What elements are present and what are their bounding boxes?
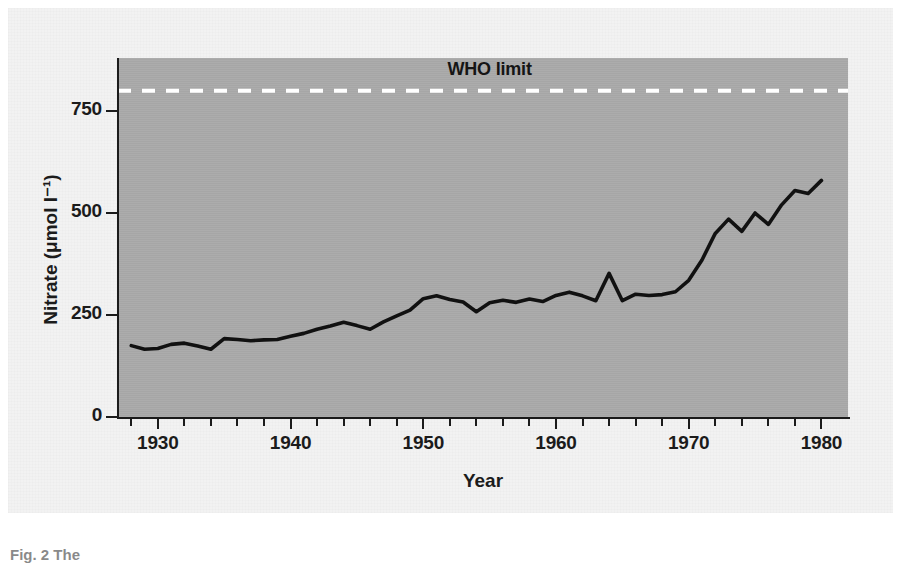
who-limit-label: WHO limit (390, 59, 590, 80)
x-tick-label-1940: 1940 (246, 432, 336, 454)
x-tick-1962 (582, 419, 584, 426)
x-tick-1934 (210, 419, 212, 426)
x-tick-1936 (236, 419, 238, 426)
x-tick-1950 (422, 419, 424, 429)
x-tick-1968 (661, 419, 663, 426)
x-tick-1940 (290, 419, 292, 429)
x-axis-title: Year (118, 470, 848, 492)
y-tick-500 (106, 212, 117, 214)
x-tick-1964 (608, 419, 610, 426)
x-tick-1938 (263, 419, 265, 426)
x-tick-label-1970: 1970 (644, 432, 734, 454)
figure-caption: Fig. 2 The (10, 546, 510, 563)
y-tick-label-0: 0 (40, 404, 102, 426)
x-tick-1958 (528, 419, 530, 426)
x-tick-1946 (369, 419, 371, 426)
x-tick-1972 (714, 419, 716, 426)
x-tick-1960 (555, 419, 557, 429)
x-tick-1932 (183, 419, 185, 426)
x-tick-1956 (502, 419, 504, 426)
nitrate-series-line (131, 180, 821, 349)
x-tick-1928 (130, 419, 132, 426)
x-tick-1970 (688, 419, 690, 429)
x-tick-1980 (820, 419, 822, 429)
y-tick-250 (106, 314, 117, 316)
plot-svg (118, 58, 848, 417)
x-tick-1976 (767, 419, 769, 426)
x-tick-1952 (449, 419, 451, 426)
y-tick-750 (106, 110, 117, 112)
x-tick-label-1980: 1980 (776, 432, 866, 454)
x-tick-1944 (343, 419, 345, 426)
x-tick-label-1930: 1930 (113, 432, 203, 454)
x-tick-1930 (157, 419, 159, 429)
plot-area (118, 58, 848, 417)
y-tick-0 (106, 416, 117, 418)
x-tick-label-1950: 1950 (378, 432, 468, 454)
y-axis-line (117, 58, 119, 419)
x-tick-1974 (741, 419, 743, 426)
x-tick-1978 (794, 419, 796, 426)
y-axis-title: Nitrate (μmol l⁻¹) (39, 95, 62, 405)
x-tick-1942 (316, 419, 318, 426)
x-tick-1966 (635, 419, 637, 426)
x-tick-1948 (396, 419, 398, 426)
x-tick-1954 (475, 419, 477, 426)
x-tick-label-1960: 1960 (511, 432, 601, 454)
